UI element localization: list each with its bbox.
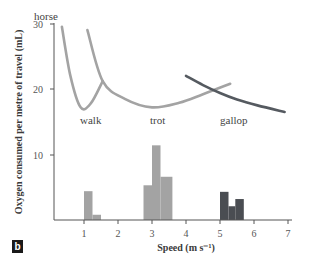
label-horse: horse <box>34 10 58 22</box>
y-axis <box>50 23 54 220</box>
histogram-bar-trot <box>144 185 153 220</box>
histogram-bar-gallop <box>229 206 236 220</box>
x-tick-label: 2 <box>116 228 121 239</box>
y-ticks: 102030 <box>33 19 43 161</box>
histogram-bars <box>84 145 244 220</box>
histogram-bar-walk <box>93 215 102 220</box>
x-ticks: 1234567 <box>82 220 291 239</box>
histogram-bar-gallop <box>220 192 229 220</box>
y-tick-label: 10 <box>33 150 43 161</box>
label-trot: trot <box>150 114 165 126</box>
y-tick-label: 20 <box>33 84 43 95</box>
histogram-bar-walk <box>84 191 93 220</box>
x-tick-label: 6 <box>252 228 257 239</box>
panel-label: b <box>12 240 23 253</box>
x-tick-label: 7 <box>286 228 291 239</box>
label-walk: walk <box>80 114 102 126</box>
curves <box>62 27 285 112</box>
x-axis-title: Speed (m s⁻¹) <box>157 242 214 254</box>
histogram-bar-trot <box>161 177 173 220</box>
curve-trot <box>87 30 230 107</box>
x-tick-label: 1 <box>82 228 87 239</box>
histogram-bar-gallop <box>235 199 244 220</box>
chart: 1234567 102030 horse walk trot gallop Sp… <box>0 0 309 266</box>
y-axis-title: Oxygen consumed per metre of travel (mL) <box>13 30 25 215</box>
histogram-bar-trot <box>152 145 161 220</box>
x-tick-label: 4 <box>184 228 189 239</box>
x-tick-label: 3 <box>150 228 155 239</box>
x-tick-label: 5 <box>218 228 223 239</box>
label-gallop: gallop <box>220 114 248 126</box>
